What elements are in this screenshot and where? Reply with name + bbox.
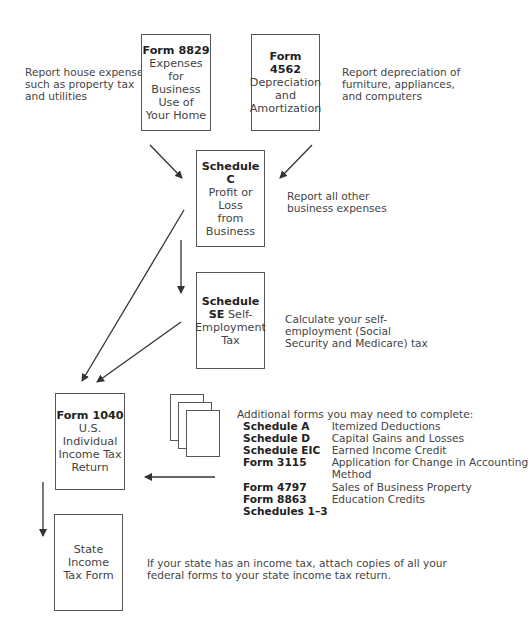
list-item: Schedule DCapital Gains and Losses <box>243 432 531 444</box>
form-8829-box: Form 8829 Expenses for Business Use of Y… <box>141 34 211 131</box>
list-item: Form 3115Application for Change in Accou… <box>243 456 531 480</box>
arrow-8829-to-c <box>150 145 182 178</box>
arrow-se-to-1040 <box>97 322 181 382</box>
note-other-expenses: Report all other business expenses <box>287 190 387 214</box>
note-house-expenses: Report house expenses such as property t… <box>25 66 149 102</box>
additional-forms-heading: Additional forms you may need to complet… <box>237 408 531 420</box>
schedule-c-box: Schedule C Profit or Loss from Business <box>196 150 265 247</box>
schedule-se-box: Schedule SE Self- Employment Tax <box>196 272 265 369</box>
form-4562-box: Form 4562 Depreciation and Amortization <box>251 34 320 131</box>
list-item: Schedule EICEarned Income Credit <box>243 444 531 456</box>
list-item: Schedule AItemized Deductions <box>243 420 531 432</box>
note-self-employment: Calculate your self- employment (Social … <box>285 313 428 349</box>
form-1040-box: Form 1040 U.S. Individual Income Tax Ret… <box>55 393 125 490</box>
note-state: If your state has an income tax, attach … <box>147 557 447 581</box>
list-item: Schedules 1–3 <box>243 505 531 517</box>
note-depreciation: Report depreciation of furniture, applia… <box>342 66 460 102</box>
state-tax-form-box: State Income Tax Form <box>54 514 123 611</box>
list-item: Form 8863Education Credits <box>243 493 531 505</box>
additional-forms-list: Additional forms you may need to complet… <box>237 408 531 517</box>
arrow-c-to-1040 <box>82 210 184 381</box>
list-item: Form 4797Sales of Business Property <box>243 481 531 493</box>
arrow-4562-to-c <box>280 145 312 178</box>
